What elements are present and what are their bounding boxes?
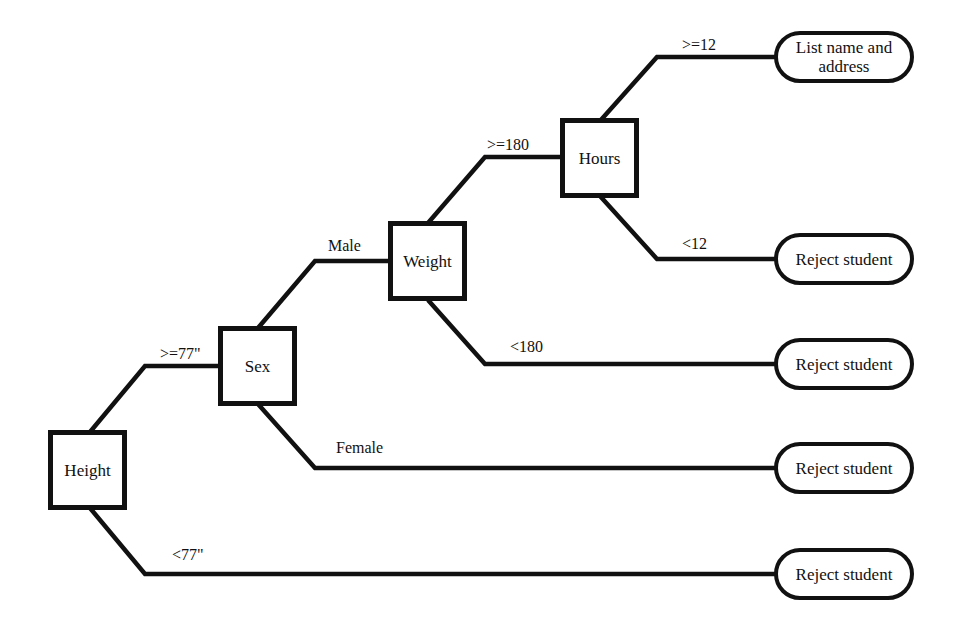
outcome-reject-label: Reject student [796, 355, 893, 374]
outcome-reject-female: Reject student [774, 442, 914, 494]
edge-weight-ge [428, 157, 562, 223]
edge-label-height-ge: >=77" [160, 346, 201, 362]
outcome-reject-label: Reject student [796, 459, 893, 478]
edge-hours-ge [600, 57, 776, 121]
edge-weight-lt [428, 300, 776, 364]
decision-sex: Sex [218, 326, 297, 406]
connector-lines [0, 0, 964, 629]
outcome-reject-height: Reject student [774, 548, 914, 600]
outcome-reject-hours: Reject student [774, 233, 914, 285]
outcome-list-name-address: List name and address [774, 31, 914, 83]
edge-label-hours-lt: <12 [682, 236, 707, 252]
edge-height-lt [90, 508, 776, 574]
edge-label-sex-male: Male [328, 238, 361, 254]
decision-height: Height [48, 430, 127, 510]
decision-sex-label: Sex [245, 357, 271, 376]
edge-label-sex-female: Female [336, 440, 383, 456]
edge-label-weight-lt: <180 [510, 339, 543, 355]
edge-sex-female [258, 404, 776, 468]
edge-sex-male [258, 261, 390, 328]
decision-hours: Hours [560, 118, 639, 198]
outcome-reject-label: Reject student [796, 565, 893, 584]
decision-weight-label: Weight [403, 252, 452, 271]
decision-weight: Weight [388, 221, 467, 301]
edge-height-ge [90, 366, 220, 432]
decision-height-label: Height [64, 461, 110, 480]
edge-label-height-lt: <77" [172, 547, 204, 563]
edge-label-hours-ge: >=12 [682, 37, 716, 53]
edge-label-weight-ge: >=180 [487, 137, 529, 153]
outcome-list-label: List name and address [789, 38, 899, 76]
outcome-reject-weight: Reject student [774, 338, 914, 390]
outcome-reject-label: Reject student [796, 250, 893, 269]
decision-hours-label: Hours [579, 149, 621, 168]
